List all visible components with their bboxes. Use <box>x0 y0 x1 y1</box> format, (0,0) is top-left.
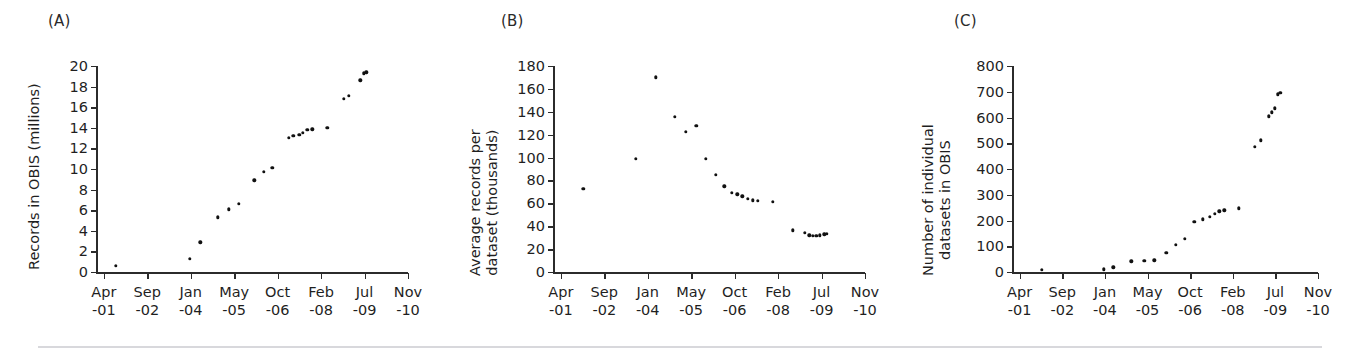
x-tick-label-month: Apr <box>1007 284 1032 300</box>
y-tick-mark <box>1007 195 1012 196</box>
x-tick-label-year: -04 <box>636 302 660 320</box>
x-tick-label-month: Jul <box>1267 284 1285 300</box>
x-tick-label: Apr-01 <box>1007 284 1032 319</box>
y-tick-mark <box>91 66 96 67</box>
x-tick-label-year: -01 <box>1007 302 1032 320</box>
data-point <box>1267 115 1270 118</box>
data-point <box>1270 111 1273 114</box>
y-tick-label: 14 <box>44 120 88 136</box>
y-tick-mark <box>548 112 553 113</box>
data-point <box>791 229 794 232</box>
data-point <box>1174 243 1177 246</box>
data-point <box>292 134 295 137</box>
y-tick-label: 40 <box>501 218 545 234</box>
x-tick-mark <box>321 273 322 279</box>
y-tick-mark <box>548 89 553 90</box>
data-point <box>1201 218 1204 221</box>
x-tick-label-year: -02 <box>591 302 618 320</box>
x-tick-label-year: -10 <box>851 302 879 320</box>
y-tick-label: 140 <box>501 104 545 120</box>
x-tick-label: Oct-06 <box>722 284 747 319</box>
x-tick-label-month: Feb <box>308 284 334 300</box>
x-tick-label-year: -08 <box>308 302 334 320</box>
y-tick-mark <box>91 87 96 88</box>
data-point <box>237 202 240 205</box>
data-point <box>756 199 759 202</box>
data-point <box>114 264 117 267</box>
x-tick-label-month: May <box>676 284 706 300</box>
x-tick-mark <box>1020 273 1021 279</box>
x-tick-mark <box>1275 273 1276 279</box>
data-point <box>298 133 301 136</box>
y-tick-mark <box>91 148 96 149</box>
y-tick-label: 60 <box>501 195 545 211</box>
y-tick-label: 10 <box>44 161 88 177</box>
y-tick-mark <box>91 190 96 191</box>
x-tick-label: Nov-10 <box>1304 284 1332 319</box>
data-point <box>287 136 290 139</box>
panel-c-y-axis-label: Number of individual datasets in OBIS <box>920 124 953 276</box>
y-tick-mark <box>1007 272 1012 273</box>
y-tick-mark <box>1007 169 1012 170</box>
x-tick-label-month: Jan <box>180 284 202 300</box>
x-tick-mark <box>648 273 649 279</box>
x-tick-label: Nov-10 <box>394 284 422 319</box>
data-point <box>342 97 345 100</box>
x-tick-label: Feb-08 <box>1220 284 1246 319</box>
panel-b-y-axis-label-line2: dataset (thousands) <box>484 130 500 276</box>
x-tick-mark <box>865 273 866 279</box>
y-tick-mark <box>91 231 96 232</box>
data-point <box>746 197 749 200</box>
data-point <box>730 191 733 194</box>
x-tick-label-month: Apr <box>548 284 573 300</box>
x-tick-mark <box>147 273 148 279</box>
data-point <box>365 70 368 73</box>
x-tick-label-year: -10 <box>1304 302 1332 320</box>
x-tick-label-year: -05 <box>1133 302 1163 320</box>
data-point <box>1153 259 1156 262</box>
y-tick-label: 6 <box>44 202 88 218</box>
x-tick-label: Jan-04 <box>179 284 203 319</box>
x-tick-label-year: -04 <box>179 302 203 320</box>
panel-c-plot-area: 0100200300400500600700800Apr-01Sep-02Jan… <box>1012 66 1318 272</box>
x-tick-label: Jan-04 <box>1093 284 1117 319</box>
y-tick-mark <box>91 210 96 211</box>
data-point <box>358 79 361 82</box>
x-tick-mark <box>1190 273 1191 279</box>
y-tick-mark <box>548 158 553 159</box>
y-tick-label: 300 <box>960 187 1004 203</box>
panel-c-y-axis-label-line2: datasets in OBIS <box>937 140 953 260</box>
x-tick-label-month: Nov <box>851 284 879 300</box>
y-tick-label: 0 <box>44 264 88 280</box>
x-tick-label-year: -04 <box>1093 302 1117 320</box>
data-point <box>695 124 698 127</box>
y-tick-label: 500 <box>960 135 1004 151</box>
x-tick-label-month: Oct <box>265 284 290 300</box>
x-tick-label-month: Nov <box>394 284 422 300</box>
x-tick-label-year: -06 <box>722 302 747 320</box>
x-tick-label-year: -09 <box>1264 302 1288 320</box>
x-tick-label-month: Oct <box>722 284 747 300</box>
data-point <box>714 173 717 176</box>
x-tick-label-year: -08 <box>765 302 791 320</box>
x-tick-label-year: -06 <box>1178 302 1203 320</box>
data-point <box>1217 210 1220 213</box>
y-tick-label: 100 <box>960 238 1004 254</box>
y-tick-mark <box>91 272 96 273</box>
data-point <box>723 184 726 187</box>
x-tick-label-year: -10 <box>394 302 422 320</box>
y-tick-mark <box>548 135 553 136</box>
y-tick-label: 20 <box>44 58 88 74</box>
x-tick-mark <box>822 273 823 279</box>
y-tick-label: 700 <box>960 84 1004 100</box>
x-tick-label-year: -01 <box>548 302 573 320</box>
data-point <box>1165 251 1168 254</box>
y-tick-mark <box>1007 66 1012 67</box>
x-tick-label-year: -05 <box>676 302 706 320</box>
x-tick-mark <box>408 273 409 279</box>
x-tick-label: Nov-10 <box>851 284 879 319</box>
panel-b-x-axis <box>553 272 865 274</box>
x-tick-mark <box>1105 273 1106 279</box>
data-point <box>199 240 202 243</box>
y-tick-label: 0 <box>960 264 1004 280</box>
